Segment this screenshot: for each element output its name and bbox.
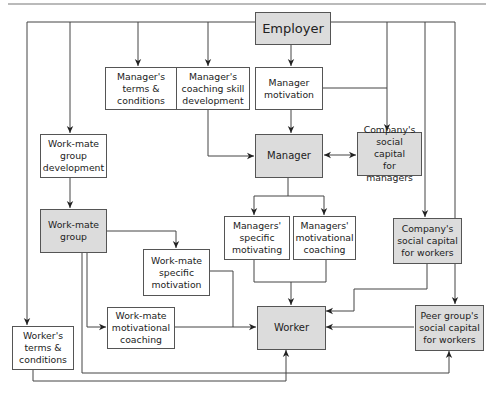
node-workmate-motivational-coaching: Work-mate motivational coaching bbox=[107, 307, 175, 349]
node-worker: Worker bbox=[257, 306, 326, 350]
node-peer-group-social-capital: Peer group's social capital for workers bbox=[415, 305, 484, 351]
node-workmate-group-development: Work-mate group development bbox=[40, 134, 107, 178]
line-msm-join bbox=[254, 259, 291, 282]
line-mmc-join bbox=[291, 259, 326, 282]
node-workmate-group: Work-mate group bbox=[40, 209, 107, 253]
node-manager-terms: Manager's terms & conditions bbox=[105, 67, 177, 110]
arrow-coaching-skill-manager bbox=[208, 109, 254, 156]
line-wm-specific-worker bbox=[209, 271, 233, 327]
node-managers-motivational-coaching: Managers' motivational coaching bbox=[293, 216, 356, 260]
node-company-social-capital-managers: Company's social capital for managers bbox=[357, 132, 422, 176]
node-managers-specific-motivating: Managers' specific motivating bbox=[224, 216, 290, 260]
node-employer: Employer bbox=[255, 12, 331, 45]
node-worker-terms: Worker's terms & conditions bbox=[12, 326, 74, 370]
arrow-csc-workers-worker bbox=[326, 263, 427, 311]
motivation-flow-diagram: Employer Manager's terms & conditions Ma… bbox=[0, 0, 496, 393]
node-manager-motivation: Manager motivation bbox=[255, 67, 323, 110]
arrow-wmg-wm-specific bbox=[106, 231, 176, 248]
node-manager-coaching-skill: Manager's coaching skill development bbox=[176, 67, 250, 110]
arrow-wmg-wm-coaching bbox=[87, 252, 106, 327]
node-company-social-capital-workers: Company's social capital for workers bbox=[393, 218, 462, 264]
node-workmate-specific-motivation: Work-mate specific motivation bbox=[143, 249, 210, 296]
node-manager: Manager bbox=[255, 134, 323, 178]
